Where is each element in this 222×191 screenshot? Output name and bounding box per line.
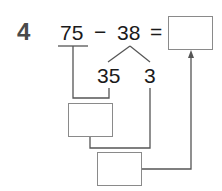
equals-sign: = — [150, 21, 162, 42]
step2-box[interactable] — [97, 152, 142, 186]
subtrahend: 38 — [117, 22, 140, 43]
minus-operator: − — [94, 21, 106, 42]
split-part-3: 3 — [144, 65, 156, 86]
question-number: 4 — [17, 20, 30, 44]
minuend: 75 — [60, 22, 83, 43]
split-part-35: 35 — [97, 65, 120, 86]
answer-box[interactable] — [168, 16, 213, 50]
step1-box[interactable] — [68, 103, 113, 137]
